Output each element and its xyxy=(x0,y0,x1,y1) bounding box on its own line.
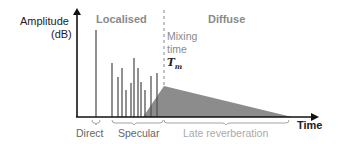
mixing-time-symbol: Tm xyxy=(167,57,182,70)
y-axis-unit: (dB) xyxy=(51,29,72,40)
y-axis-label: Amplitude xyxy=(20,16,69,27)
mixing-time-label-2: time xyxy=(167,44,187,55)
mixing-time-label: Mixing xyxy=(167,31,197,42)
specular-brace xyxy=(112,120,163,125)
direct-brace xyxy=(92,120,100,125)
late-reverberation-tail xyxy=(143,86,292,117)
segment-direct-label: Direct xyxy=(76,128,103,139)
y-axis-arrow-icon xyxy=(73,8,81,15)
region-localised-label: Localised xyxy=(96,14,147,25)
late-reverberation-brace xyxy=(164,120,289,125)
segment-specular-label: Specular xyxy=(118,128,159,139)
x-axis-label: Time xyxy=(297,120,322,131)
region-diffuse-label: Diffuse xyxy=(208,14,245,25)
segment-late-reverberation-label: Late reverberation xyxy=(183,128,268,139)
